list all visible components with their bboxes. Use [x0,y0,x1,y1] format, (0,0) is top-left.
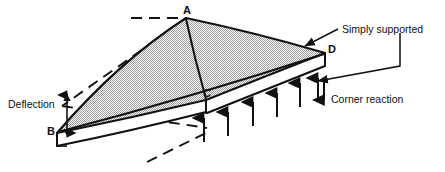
vertex-label-D: D [328,44,336,55]
vertex-label-C: C [203,88,211,99]
deflection-label: Deflection [8,99,55,110]
corner-reaction-label: Corner reaction [331,94,403,105]
vertex-label-B: B [47,126,55,137]
leader-to-side [318,33,400,81]
figure-canvas: A B C D Deflection Simply supported Corn… [0,0,445,172]
vertex-label-A: A [183,5,191,16]
simply-supported-label: Simply supported [342,24,423,35]
